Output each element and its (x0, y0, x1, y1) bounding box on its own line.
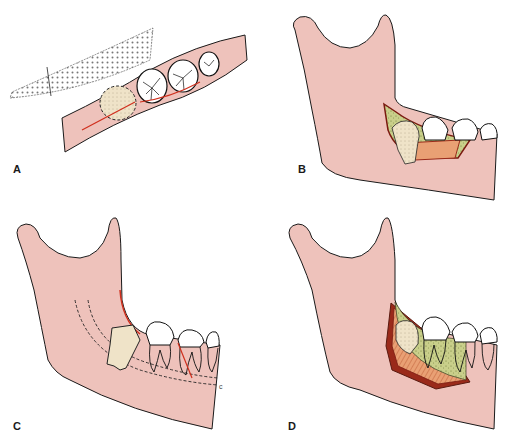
panel-label-b: B (298, 163, 306, 175)
figure-canvas: c (0, 0, 507, 441)
panel-a (10, 28, 247, 152)
teeth-c (146, 322, 219, 348)
panel-b (293, 15, 497, 200)
molar-2 (168, 60, 198, 92)
premolar (199, 52, 219, 76)
panel-c: c (17, 218, 223, 429)
panel-d (289, 218, 497, 429)
panel-label-c: C (13, 420, 21, 432)
impacted-tooth-outline (100, 86, 136, 120)
canal-marker: c (219, 383, 223, 390)
teeth-b (422, 117, 497, 140)
mandible-c (17, 218, 220, 429)
panel-label-a: A (13, 163, 21, 175)
panel-label-d: D (288, 420, 296, 432)
mandible-b (293, 15, 497, 200)
teeth-d (422, 317, 497, 344)
